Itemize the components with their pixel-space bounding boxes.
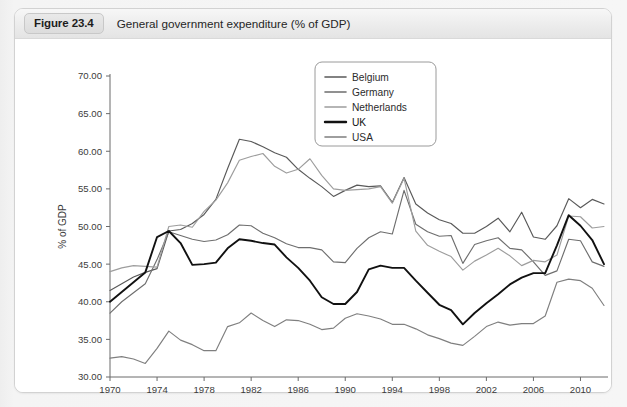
page-background: Figure 23.4 General government expenditu… xyxy=(0,0,627,407)
svg-text:30.00: 30.00 xyxy=(78,371,102,382)
svg-text:1994: 1994 xyxy=(382,384,404,394)
figure-header: Figure 23.4 General government expenditu… xyxy=(15,9,611,39)
svg-text:1990: 1990 xyxy=(335,384,356,394)
svg-text:1970: 1970 xyxy=(99,384,120,394)
series-line-germany xyxy=(110,190,604,313)
svg-text:2010: 2010 xyxy=(570,384,591,394)
svg-text:1986: 1986 xyxy=(288,384,309,394)
svg-text:1978: 1978 xyxy=(193,384,214,394)
svg-text:45.00: 45.00 xyxy=(78,259,102,270)
svg-text:35.00: 35.00 xyxy=(78,334,102,345)
legend-label-belgium: Belgium xyxy=(352,72,389,83)
svg-text:70.00: 70.00 xyxy=(78,70,102,81)
svg-text:2002: 2002 xyxy=(476,384,497,394)
svg-text:55.00: 55.00 xyxy=(78,183,102,194)
legend-label-uk: UK xyxy=(352,117,366,128)
legend-label-germany: Germany xyxy=(352,87,395,98)
figure-card: Figure 23.4 General government expenditu… xyxy=(14,8,612,393)
svg-text:2006: 2006 xyxy=(523,384,544,394)
series-line-uk xyxy=(110,215,604,324)
svg-text:60.00: 60.00 xyxy=(78,146,102,157)
figure-caption: General government expenditure (% of GDP… xyxy=(117,17,351,30)
svg-text:50.00: 50.00 xyxy=(78,221,102,232)
legend-label-netherlands: Netherlands xyxy=(352,102,407,113)
svg-text:1998: 1998 xyxy=(429,384,450,394)
series-line-belgium xyxy=(110,139,604,290)
legend-label-usa: USA xyxy=(352,132,373,143)
svg-text:1974: 1974 xyxy=(146,384,168,394)
svg-text:% of GDP: % of GDP xyxy=(57,204,68,249)
svg-text:65.00: 65.00 xyxy=(78,108,102,119)
line-chart: 30.0035.0040.0045.0050.0055.0060.0065.00… xyxy=(15,40,613,394)
figure-number-badge: Figure 23.4 xyxy=(24,13,104,34)
svg-text:40.00: 40.00 xyxy=(78,296,102,307)
series-line-netherlands xyxy=(110,154,604,272)
chart-area: 30.0035.0040.0045.0050.0055.0060.0065.00… xyxy=(15,40,611,392)
svg-text:1982: 1982 xyxy=(240,384,261,394)
